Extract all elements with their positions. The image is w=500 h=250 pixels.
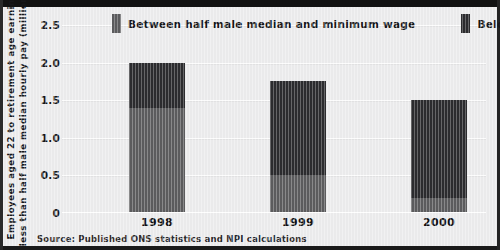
y-axis-tick-label: 0.5 <box>41 169 60 181</box>
legend-item-below-minimum-wage: Below minimum wage <box>461 14 500 33</box>
bar-group <box>62 25 486 213</box>
y-axis-title-line-1: Employees aged 22 to retirement age earn… <box>6 0 18 239</box>
legend-item-between-half-median: Between half male median and minimum wag… <box>112 14 415 33</box>
bar-segment-between-half-median-1998 <box>129 108 185 213</box>
legend-swatch-below-minimum-wage <box>461 14 470 33</box>
chart-legend: Between half male median and minimum wag… <box>112 14 500 33</box>
legend-label-between-half-median: Between half male median and minimum wag… <box>128 18 415 30</box>
bar-2000 <box>411 100 467 213</box>
bar-segment-below-minimum-wage-1999 <box>270 81 326 175</box>
bar-segment-between-half-median-1999 <box>270 175 326 213</box>
scan-edge-top <box>0 0 500 7</box>
x-axis-label-1999: 1999 <box>270 216 326 229</box>
legend-label-below-minimum-wage: Below minimum wage <box>477 18 500 30</box>
bar-segment-below-minimum-wage-1998 <box>129 63 185 108</box>
bar-1999 <box>270 81 326 213</box>
y-axis-tick-label: 2.5 <box>41 19 60 31</box>
x-axis-tick-labels: 199819992000 <box>62 216 486 234</box>
x-axis-label-2000: 2000 <box>411 216 467 229</box>
source-note: Source: Published ONS statistics and NPI… <box>37 234 307 244</box>
plot-area <box>62 25 486 213</box>
scan-edge-bottom <box>0 246 500 250</box>
bar-segment-between-half-median-2000 <box>411 198 467 213</box>
y-axis-tick-label: 1.5 <box>41 94 60 106</box>
legend-swatch-between-half-median <box>112 14 121 33</box>
y-axis-tick-label: 1.0 <box>41 132 60 144</box>
x-axis-label-1998: 1998 <box>129 216 185 229</box>
scan-edge-left <box>0 0 3 250</box>
y-axis-tick-label: 2.0 <box>41 57 60 69</box>
bar-segment-below-minimum-wage-2000 <box>411 100 467 198</box>
y-axis-tick-labels: 2.52.01.51.00.50 <box>26 25 60 213</box>
chart-figure: Between half male median and minimum wag… <box>0 0 500 250</box>
axis-baseline <box>62 212 486 213</box>
bar-1998 <box>129 63 185 213</box>
y-axis-tick-label: 0 <box>52 207 60 219</box>
